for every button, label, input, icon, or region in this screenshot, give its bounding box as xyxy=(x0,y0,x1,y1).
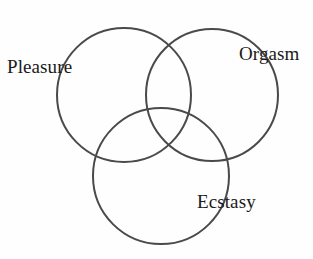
venn-diagram-figure: Pleasure Orgasm Ecstasy xyxy=(0,0,313,259)
venn-circles-canvas xyxy=(0,0,313,259)
